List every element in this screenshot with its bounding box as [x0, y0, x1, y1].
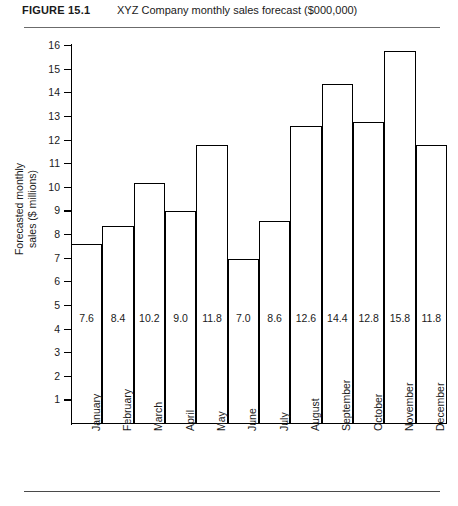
y-axis-tick: [64, 376, 71, 377]
y-axis-tick: [64, 163, 71, 164]
y-axis-tick-label: 7: [40, 253, 60, 264]
bar-value-label: 14.4: [322, 313, 353, 324]
y-axis-tick-label: 16: [40, 40, 60, 51]
y-axis-tick: [64, 187, 71, 188]
y-axis-tick-label: 5: [40, 300, 60, 311]
y-axis-tick-label: 1: [40, 394, 60, 405]
bar-value-label: 10.2: [134, 313, 165, 324]
x-axis-label: July: [279, 412, 290, 431]
bar: [228, 259, 259, 424]
y-axis-tick: [64, 210, 71, 211]
bar-value-label: 7.0: [228, 313, 259, 324]
bar-value-label: 12.6: [290, 313, 321, 324]
y-axis-tick: [64, 281, 71, 282]
y-axis-tick-label: 3: [40, 347, 60, 358]
bar-value-label: 11.8: [196, 313, 227, 324]
y-axis-tick-label: 14: [40, 87, 60, 98]
y-axis-title: Forecasted monthly sales ($ millions): [13, 139, 39, 279]
y-axis-tick: [64, 140, 71, 141]
y-axis-tick: [64, 399, 71, 400]
x-axis-label: December: [435, 383, 446, 431]
bar: [196, 145, 227, 424]
x-axis-label: November: [404, 383, 415, 431]
y-axis-tick-label: 2: [40, 371, 60, 382]
y-axis-tick-label: 6: [40, 276, 60, 287]
x-axis-label: August: [310, 398, 321, 431]
x-axis-label: February: [122, 389, 133, 431]
x-axis-label: March: [153, 402, 164, 431]
figure-number: FIGURE 15.1: [22, 4, 90, 16]
y-axis-tick-label: 10: [40, 182, 60, 193]
bar-series: 7.68.410.29.011.87.08.612.614.412.815.81…: [71, 28, 447, 425]
bar: [290, 126, 321, 424]
figure-header: FIGURE 15.1 XYZ Company monthly sales fo…: [0, 0, 458, 24]
y-axis-tick-label: 12: [40, 135, 60, 146]
bar: [384, 51, 415, 424]
x-axis-label: January: [91, 394, 102, 431]
bar: [353, 122, 384, 424]
x-axis-label: June: [247, 408, 258, 431]
y-axis-tick-label: 11: [40, 158, 60, 169]
bar-value-label: 8.4: [102, 313, 133, 324]
y-axis-tick-label: 4: [40, 324, 60, 335]
bar: [134, 183, 165, 424]
y-axis-tick-label: 9: [40, 205, 60, 216]
bar-value-label: 12.8: [353, 313, 384, 324]
y-axis-tick: [64, 329, 71, 330]
x-axis-label: September: [341, 380, 352, 431]
y-axis-title-line2: sales ($ millions): [26, 139, 39, 279]
y-axis-tick: [64, 45, 71, 46]
y-axis-tick: [64, 234, 71, 235]
x-axis-label: October: [373, 394, 384, 431]
x-axis-label: May: [216, 411, 227, 431]
bar-value-label: 15.8: [384, 313, 415, 324]
footer-divider-bottom: [24, 491, 440, 492]
y-axis-tick: [64, 305, 71, 306]
y-axis-tick: [64, 352, 71, 353]
y-axis-tick-label: 8: [40, 229, 60, 240]
x-axis-label: April: [185, 410, 196, 431]
y-axis-tick-label: 15: [40, 64, 60, 75]
bar-value-label: 11.8: [416, 313, 447, 324]
y-axis-tick-label: 13: [40, 111, 60, 122]
bar-chart: Forecasted monthly sales ($ millions) 16…: [0, 28, 458, 491]
y-axis-title-line1: Forecasted monthly: [13, 139, 26, 279]
y-axis-tick: [64, 92, 71, 93]
y-axis-tick: [64, 69, 71, 70]
bar-value-label: 8.6: [259, 313, 290, 324]
figure-caption: XYZ Company monthly sales forecast ($000…: [117, 4, 357, 16]
y-axis-tick: [64, 258, 71, 259]
bar-value-label: 9.0: [165, 313, 196, 324]
bar-value-label: 7.6: [71, 313, 102, 324]
bar: [322, 84, 353, 424]
y-axis-tick: [64, 116, 71, 117]
